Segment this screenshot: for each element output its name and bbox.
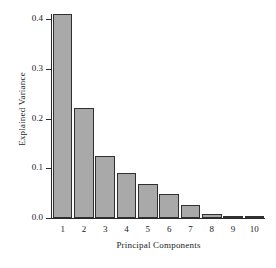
- x-tick-label: 8: [201, 222, 222, 236]
- x-tick-label: 6: [159, 222, 180, 236]
- y-tick-label: 0.0: [21, 213, 43, 222]
- bar: [117, 173, 137, 218]
- x-tick-label: 9: [222, 222, 243, 236]
- x-tick-label: 4: [116, 222, 137, 236]
- plot-area: [52, 8, 265, 218]
- bar: [95, 156, 115, 218]
- x-tick-label: 2: [73, 222, 94, 236]
- x-tick-label: 7: [180, 222, 201, 236]
- x-axis-tick-labels: 12345678910: [52, 222, 265, 236]
- x-tick-label: 10: [244, 222, 265, 236]
- bar: [181, 205, 201, 218]
- bar: [245, 216, 265, 218]
- x-tick-label: 5: [137, 222, 158, 236]
- x-axis-line: [51, 218, 265, 219]
- bar: [74, 108, 94, 218]
- bar: [223, 216, 243, 218]
- bar: [202, 214, 222, 218]
- bar: [138, 184, 158, 218]
- y-tick-label: 0.2: [21, 114, 43, 123]
- x-axis-title: Principal Components: [52, 240, 265, 250]
- y-tick-label: 0.3: [21, 64, 43, 73]
- scree-plot-figure: Explained Variance 0.00.10.20.30.4 12345…: [0, 0, 276, 268]
- x-tick-label: 1: [52, 222, 73, 236]
- bar: [159, 194, 179, 218]
- y-tick-label: 0.1: [21, 163, 43, 172]
- bar: [53, 14, 73, 218]
- y-axis-tick-labels: 0.00.10.20.30.4: [21, 0, 43, 268]
- x-tick-label: 3: [95, 222, 116, 236]
- y-tick-label: 0.4: [21, 14, 43, 23]
